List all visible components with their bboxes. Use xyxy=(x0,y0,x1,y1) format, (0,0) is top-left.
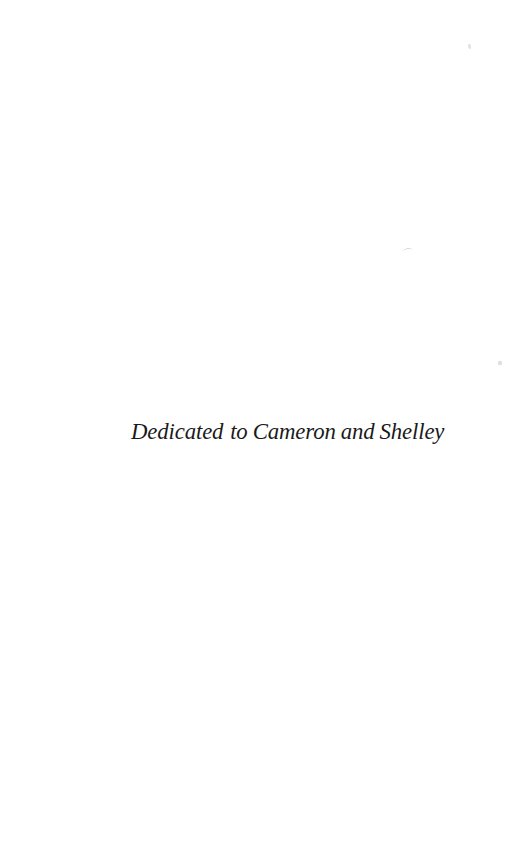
scan-speck-middle-right-icon xyxy=(403,247,414,254)
dedication-lead-word: Dedicated xyxy=(131,418,223,444)
dedication-line: Dedicated to Cameron and Shelley xyxy=(131,417,444,445)
dedication-block: Dedicated to Cameron and Shelley xyxy=(131,417,391,449)
dedication-page: Dedicated to Cameron and Shelley xyxy=(0,0,513,859)
scan-speck-top-right-icon xyxy=(468,44,472,50)
scan-speck-lower-right-icon xyxy=(497,360,502,365)
dedication-rest-text: to Cameron and Shelley xyxy=(230,418,444,444)
